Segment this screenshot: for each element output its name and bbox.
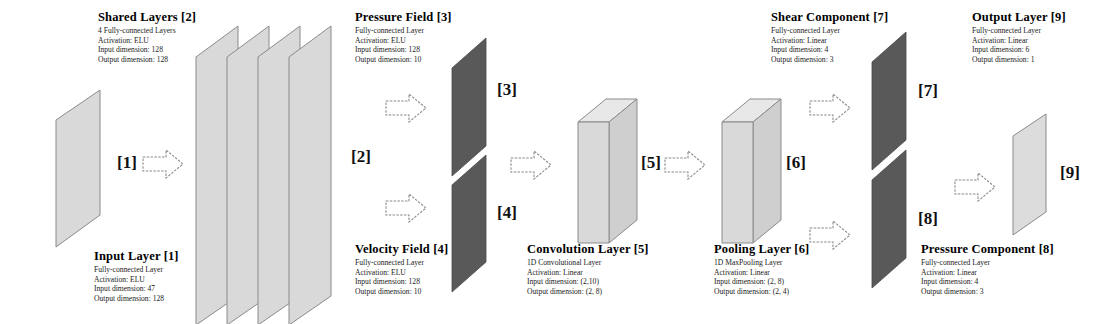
block-title-velocity-field: Velocity Field [4] [355, 242, 448, 256]
detail-line: Fully-connected Layer [972, 26, 1066, 36]
arrow-pooling-to-pressure-component [810, 221, 850, 249]
connection-tag-2: [2] [351, 147, 371, 167]
detail-line: Activation: ELU [355, 36, 452, 46]
detail-line: Fully-connected Layer [94, 265, 179, 275]
detail-line: Output dimension: 3 [771, 55, 888, 65]
shared-layers-planes [196, 26, 331, 324]
pressure-field-plane [452, 38, 486, 176]
detail-line: Fully-connected Layer [771, 26, 888, 36]
detail-line: 1D MaxPooling Layer [714, 258, 809, 268]
block-lines-pressure-field: Fully-connected Layer Activation: ELU In… [355, 26, 452, 64]
architecture-diagram: Input Layer [1] Fully-connected Layer Ac… [0, 0, 1114, 324]
block-title-pressure-field: Pressure Field [3] [355, 10, 452, 24]
detail-line: Fully-connected Layer [921, 258, 1054, 268]
convolution-layer-box [578, 99, 637, 243]
detail-line: Output dimension: 128 [94, 294, 179, 304]
block-title-convolution-layer: Convolution Layer [5] [527, 242, 649, 256]
detail-line: Activation: Linear [771, 36, 888, 46]
detail-line: Input dimension: 4 [771, 45, 888, 55]
pooling-layer-box [722, 99, 781, 243]
detail-line: Output dimension: 10 [355, 55, 452, 65]
detail-line: Output dimension: (2, 8) [527, 287, 649, 297]
block-label-shear-component: Shear Component [7] Fully-connected Laye… [771, 10, 888, 64]
connection-tag-1: [1] [117, 153, 137, 173]
block-title-shear-component: Shear Component [7] [771, 10, 888, 24]
block-label-pressure-component: Pressure Component [8] Fully-connected L… [921, 242, 1054, 296]
output-layer-plane [1013, 114, 1046, 235]
block-lines-input-layer: Fully-connected Layer Activation: ELU In… [94, 265, 179, 303]
block-label-output-layer: Output Layer [9] Fully-connected Layer A… [972, 10, 1066, 64]
block-label-pressure-field: Pressure Field [3] Fully-connected Layer… [355, 10, 452, 64]
detail-line: Activation: Linear [527, 268, 649, 278]
connection-tag-8: [8] [918, 209, 938, 229]
block-lines-output-layer: Fully-connected Layer Activation: Linear… [972, 26, 1066, 64]
detail-line: Activation: Linear [921, 268, 1054, 278]
detail-line: Output dimension: (2, 4) [714, 287, 809, 297]
block-label-input-layer: Input Layer [1] Fully-connected Layer Ac… [94, 249, 179, 303]
detail-line: Activation: ELU [94, 275, 179, 285]
detail-line: Input dimension: (2,10) [527, 277, 649, 287]
arrow-pooling-to-shear [810, 94, 850, 122]
detail-line: Output dimension: 3 [921, 287, 1054, 297]
block-lines-shared-layers: 4 Fully-connected Layers Activation: ELU… [98, 26, 196, 64]
block-lines-pressure-component: Fully-connected Layer Activation: Linear… [921, 258, 1054, 296]
connection-tag-9: [9] [1060, 163, 1080, 183]
velocity-field-plane [452, 155, 486, 292]
detail-line: Output dimension: 10 [355, 287, 448, 297]
block-label-pooling-layer: Pooling Layer [6] 1D MaxPooling Layer Ac… [714, 242, 809, 296]
arrow-input-to-shared [143, 150, 183, 178]
connection-tag-5: [5] [641, 153, 661, 173]
input-layer-plane [56, 90, 100, 247]
detail-line: Activation: ELU [355, 268, 448, 278]
block-title-shared-layers: Shared Layers [2] [98, 10, 196, 24]
detail-line: Input dimension: 128 [355, 277, 448, 287]
detail-line: Input dimension: 6 [972, 45, 1066, 55]
block-lines-pooling-layer: 1D MaxPooling Layer Activation: Linear I… [714, 258, 809, 296]
block-title-input-layer: Input Layer [1] [94, 249, 179, 263]
connection-tag-6: [6] [786, 153, 806, 173]
detail-line: Fully-connected Layer [355, 26, 452, 36]
detail-line: Fully-connected Layer [355, 258, 448, 268]
detail-line: Input dimension: 4 [921, 277, 1054, 287]
block-lines-velocity-field: Fully-connected Layer Activation: ELU In… [355, 258, 448, 296]
detail-line: Input dimension: 128 [355, 45, 452, 55]
connection-tag-3: [3] [497, 80, 517, 100]
block-title-pooling-layer: Pooling Layer [6] [714, 242, 809, 256]
detail-line: Input dimension: 47 [94, 284, 179, 294]
block-label-velocity-field: Velocity Field [4] Fully-connected Layer… [355, 242, 448, 296]
detail-line: Activation: Linear [714, 268, 809, 278]
block-label-convolution-layer: Convolution Layer [5] 1D Convolutional L… [527, 242, 649, 296]
detail-line: Activation: ELU [98, 36, 196, 46]
arrow-shared-to-pressure-field [386, 94, 426, 122]
detail-line: Output dimension: 128 [98, 55, 196, 65]
detail-line: Input dimension: 128 [98, 45, 196, 55]
pressure-component-plane [872, 150, 906, 288]
arrow-components-to-output [955, 173, 995, 201]
connection-tag-4: [4] [497, 203, 517, 223]
detail-line: Input dimension: (2, 8) [714, 277, 809, 287]
block-label-shared-layers: Shared Layers [2] 4 Fully-connected Laye… [98, 10, 196, 64]
connection-tag-7: [7] [918, 81, 938, 101]
detail-line: 4 Fully-connected Layers [98, 26, 196, 36]
detail-line: Output dimension: 1 [972, 55, 1066, 65]
block-title-pressure-component: Pressure Component [8] [921, 242, 1054, 256]
block-lines-shear-component: Fully-connected Layer Activation: Linear… [771, 26, 888, 64]
block-lines-convolution-layer: 1D Convolutional Layer Activation: Linea… [527, 258, 649, 296]
arrow-fields-to-convolution [511, 151, 551, 179]
arrow-convolution-to-pooling [665, 151, 705, 179]
block-title-output-layer: Output Layer [9] [972, 10, 1066, 24]
detail-line: 1D Convolutional Layer [527, 258, 649, 268]
detail-line: Activation: Linear [972, 36, 1066, 46]
arrow-shared-to-velocity-field [386, 194, 426, 222]
